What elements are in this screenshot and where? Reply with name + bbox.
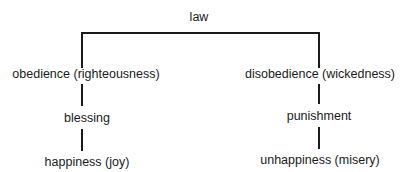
left-root-connector [81, 32, 83, 68]
right-root-connector [318, 32, 320, 68]
right-connector-1 [318, 84, 320, 104]
root-horizontal-connector [81, 32, 320, 34]
node-happiness: happiness (joy) [45, 155, 130, 169]
root-node-law: law [190, 10, 209, 24]
node-blessing: blessing [64, 111, 110, 125]
node-disobedience: disobedience (wickedness) [245, 67, 395, 81]
node-unhappiness: unhappiness (misery) [260, 153, 380, 167]
left-connector-1 [81, 84, 83, 106]
right-connector-2 [318, 127, 320, 149]
left-connector-2 [81, 129, 83, 151]
node-punishment: punishment [287, 109, 352, 123]
node-obedience: obedience (righteousness) [12, 67, 159, 81]
